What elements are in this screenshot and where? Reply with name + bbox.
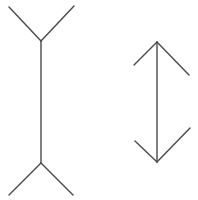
- fin-line: [41, 6, 74, 41]
- fin-line: [9, 7, 41, 41]
- fin-line: [157, 42, 189, 75]
- fin-line: [157, 128, 190, 162]
- fin-line: [9, 163, 41, 195]
- fin-line: [134, 42, 157, 65]
- fin-line: [41, 163, 73, 195]
- figure-arrowheads: [134, 42, 190, 162]
- fin-line: [135, 141, 157, 162]
- muller-lyer-diagram: [0, 0, 198, 200]
- figure-fins-out: [9, 6, 74, 195]
